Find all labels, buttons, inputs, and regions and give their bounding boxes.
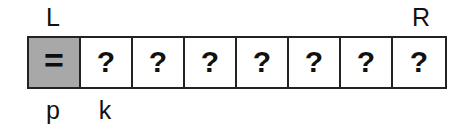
question-mark-glyph: ? [149,47,167,77]
equals-glyph: = [44,43,64,77]
question-mark-glyph: ? [410,47,428,77]
array-cell-unknown: ? [237,38,289,87]
question-mark-glyph: ? [253,47,271,77]
question-mark-glyph: ? [201,47,219,77]
array-cell-unknown: ? [81,38,133,87]
question-mark-glyph: ? [97,47,115,77]
array-cell-unknown: ? [185,38,237,87]
bottom-label-row: p k [27,95,447,131]
question-mark-glyph: ? [305,47,323,77]
array-cell-unknown: ? [289,38,341,87]
top-label-row: L R [27,2,447,34]
question-mark-glyph: ? [357,47,375,77]
bottom-label-scan-index: k [79,95,131,125]
top-label-left-bound: L [27,2,79,32]
bottom-label-pivot-index: p [27,95,79,125]
array-diagram: L R = ? ? ? ? ? ? ? p k [0,0,472,135]
array-cell-unknown: ? [341,38,393,87]
top-label-right-bound: R [395,2,447,32]
array-cell-unknown: ? [393,38,445,87]
array-strip: = ? ? ? ? ? ? ? [27,36,447,89]
array-cell-unknown: ? [133,38,185,87]
array-cell-pivot: = [29,38,81,87]
